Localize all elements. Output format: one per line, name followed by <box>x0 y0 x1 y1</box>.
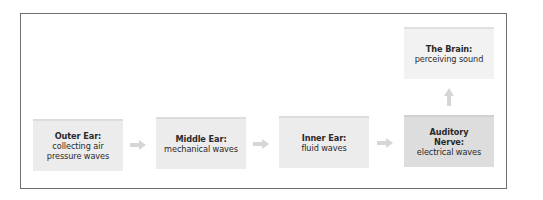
node-text: pressure waves <box>47 151 109 161</box>
node-title: Middle Ear: <box>175 134 226 144</box>
node-outer-ear: Outer Ear: collecting air pressure waves <box>33 119 123 171</box>
node-inner-ear: Inner Ear: fluid waves <box>279 116 369 168</box>
node-title: Inner Ear: <box>302 133 347 143</box>
node-text: electrical waves <box>417 147 481 157</box>
node-text: collecting air <box>52 141 103 151</box>
arrow-up-icon <box>444 88 454 106</box>
node-text: perceiving sound <box>415 54 484 64</box>
node-title: Outer Ear: <box>55 131 102 141</box>
arrow-right-icon <box>253 139 269 149</box>
arrow-right-icon <box>377 138 393 148</box>
node-auditory-nerve: Auditory Nerve: electrical waves <box>404 115 494 167</box>
node-text: fluid waves <box>301 143 346 153</box>
node-brain: The Brain: perceiving sound <box>404 27 494 79</box>
node-middle-ear: Middle Ear: mechanical waves <box>156 117 246 169</box>
node-title: The Brain: <box>426 44 473 54</box>
arrow-right-icon <box>130 140 146 150</box>
node-title: Nerve: <box>434 137 464 147</box>
node-title: Auditory <box>430 127 469 137</box>
node-text: mechanical waves <box>164 144 238 154</box>
